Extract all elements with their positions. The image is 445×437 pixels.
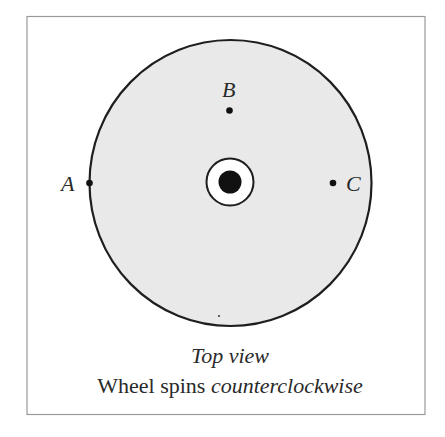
point-b-dot xyxy=(226,107,233,114)
point-c-label: C xyxy=(346,171,361,196)
point-c-dot xyxy=(330,180,337,187)
speck xyxy=(218,315,220,317)
wheel-hub-axle xyxy=(207,159,254,206)
caption-spin-italic: counterclockwise xyxy=(211,373,363,398)
caption-spin-normal: Wheel spins xyxy=(97,373,211,398)
wheel-diagram: A B C Top view Wheel spins counterclockw… xyxy=(0,0,445,437)
point-a-label: A xyxy=(59,171,75,196)
point-a-dot xyxy=(86,180,93,187)
caption-spin-direction: Wheel spins counterclockwise xyxy=(97,373,363,398)
point-b-label: B xyxy=(222,77,235,102)
caption-top-view: Top view xyxy=(191,343,269,368)
